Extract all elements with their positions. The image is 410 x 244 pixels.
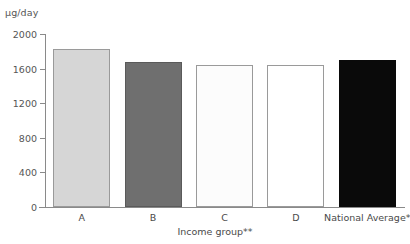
plot-area: 0400800120016002000 <box>46 34 403 207</box>
y-axis-tick-label: 2000 <box>13 29 37 40</box>
y-axis-tick-mark <box>40 172 46 173</box>
x-axis-category-label: B <box>150 212 157 223</box>
y-axis-tick-label: 400 <box>19 167 37 178</box>
y-axis-tick-mark <box>40 138 46 139</box>
bar-b <box>125 62 182 207</box>
x-axis-category-label: National Average* <box>324 212 410 223</box>
y-axis-tick-mark <box>40 34 46 35</box>
y-axis-tick-label: 1600 <box>13 63 37 74</box>
x-axis-category-label: D <box>292 212 299 223</box>
x-axis-category-label: A <box>78 212 85 223</box>
x-axis-line <box>39 207 405 208</box>
y-axis-tick-mark <box>40 207 46 208</box>
y-axis-tick-mark <box>40 69 46 70</box>
x-axis-title: Income group** <box>177 226 252 237</box>
bar-d <box>267 65 324 207</box>
bar-a <box>53 49 110 207</box>
y-axis-tick-mark <box>40 103 46 104</box>
bar-national-average <box>339 60 396 207</box>
y-axis-tick-label: 800 <box>19 132 37 143</box>
y-axis-unit-label: µg/day <box>5 7 38 18</box>
y-axis-tick-label: 0 <box>31 202 37 213</box>
y-axis-tick-label: 1200 <box>13 98 37 109</box>
x-axis-category-label: C <box>221 212 228 223</box>
bar-c <box>196 65 253 207</box>
